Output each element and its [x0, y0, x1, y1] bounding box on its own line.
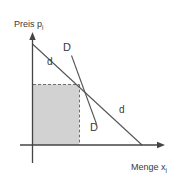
x-axis-label-subscript: i [166, 167, 167, 174]
curve-label-D-lower: D [90, 122, 98, 133]
demand-curve-figure: Preis pi Menge xi d D D d [0, 0, 191, 181]
curve-label-d-left: d [47, 57, 53, 67]
x-axis-label-text: Menge x [131, 162, 166, 172]
x-axis-arrowhead [157, 142, 165, 148]
shaded-revenue-rectangle [33, 85, 79, 146]
curve-label-D-upper: D [63, 42, 71, 53]
y-axis-arrowhead [29, 32, 35, 40]
y-axis-label: Preis pi [14, 20, 43, 31]
curve-label-d-right: d [119, 105, 125, 115]
y-axis-label-subscript: i [42, 24, 43, 31]
y-axis-label-text: Preis p [14, 19, 42, 29]
x-axis-label: Menge xi [131, 163, 167, 174]
